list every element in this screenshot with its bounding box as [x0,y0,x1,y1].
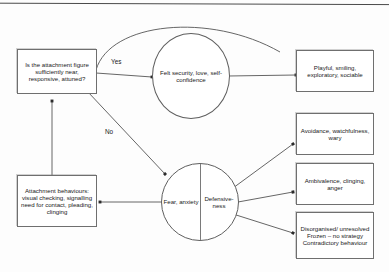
node-defensiveness-label: Defensive-ness [200,195,238,209]
node-disorganised-box[interactable]: Disorganised/ unresolved Frozen – no str… [296,212,374,259]
node-disorganised-label: Disorganised/ unresolved Frozen – no str… [299,225,371,247]
node-fear-anxiety-half[interactable]: Fear, anxiety [162,164,200,240]
node-avoidance-box[interactable]: Avoidance, watchfulness, wary [296,113,374,155]
node-question-box[interactable]: Is the attachment figure sufficiently ne… [17,49,97,94]
edge-no-to-fear-circle [88,92,165,174]
edge-felt-security-to-playful [228,75,296,76]
edge-label-no-text: No [105,128,113,135]
node-attachment-behaviours-label: Attachment behaviours: visual checking, … [20,187,94,216]
node-fear-anxiety-label: Fear, anxiety [164,198,199,205]
edge-label-no: No [105,128,113,135]
node-ambivalence-label: Ambivalence, clinging, anger [299,177,371,191]
diagram-canvas: Is the attachment figure sufficiently ne… [0,0,389,272]
node-avoidance-label: Avoidance, watchfulness, wary [299,127,371,141]
edge-yes-to-felt-security [96,73,152,77]
node-fear-defensiveness-circle[interactable]: Fear, anxiety Defensive-ness [161,163,239,241]
node-felt-security-circle[interactable]: Felt security, love, self-confidence [152,33,230,119]
node-attachment-behaviours-box[interactable]: Attachment behaviours: visual checking, … [17,175,97,227]
edge-defensiveness-to-avoidance [233,144,293,188]
node-playful-label: Playful, smiling, exploratory, sociable [299,64,371,78]
node-ambivalence-box[interactable]: Ambivalence, clinging, anger [296,163,374,205]
edge-label-yes: Yes [111,58,121,65]
node-defensiveness-half[interactable]: Defensive-ness [200,164,238,240]
node-playful-box[interactable]: Playful, smiling, exploratory, sociable [296,50,374,92]
node-felt-security-label: Felt security, love, self-confidence [153,69,229,83]
edge-defensiveness-to-ambivalence [238,192,293,202]
node-question-label: Is the attachment figure sufficiently ne… [20,61,94,83]
edge-defensiveness-to-disorganised [233,214,293,233]
edge-label-yes-text: Yes [111,58,121,65]
